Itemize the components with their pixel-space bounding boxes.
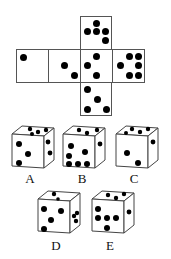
- pip: [93, 28, 100, 35]
- die-option-e[interactable]: [88, 189, 136, 235]
- pip: [126, 72, 133, 79]
- option-label-c: C: [124, 171, 144, 187]
- pip: [102, 28, 109, 35]
- pip: [103, 106, 110, 113]
- pip: [84, 62, 91, 69]
- die-option-b[interactable]: [59, 124, 107, 170]
- option-label-d: D: [46, 238, 66, 254]
- net-face-bottom: [80, 82, 112, 116]
- pip: [117, 62, 124, 69]
- net-face-row-1: [16, 49, 49, 83]
- pip: [84, 106, 91, 113]
- pip: [126, 53, 133, 60]
- net-face-row-4: [112, 49, 145, 83]
- pip: [71, 72, 78, 79]
- pip: [135, 62, 142, 69]
- pip: [93, 72, 100, 79]
- die-option-a[interactable]: [8, 124, 56, 170]
- option-label-e: E: [100, 238, 120, 254]
- pip: [135, 53, 142, 60]
- die-option-d[interactable]: [34, 189, 82, 235]
- pip: [20, 54, 27, 61]
- pip: [84, 86, 91, 93]
- pip: [93, 20, 100, 27]
- pip: [61, 62, 68, 69]
- net-face-row-2: [48, 49, 81, 83]
- net-face-row-3: [80, 49, 113, 83]
- pip: [94, 96, 101, 103]
- die-option-c[interactable]: [112, 124, 160, 170]
- net-face-top: [80, 16, 112, 50]
- option-label-b: B: [72, 171, 92, 187]
- pip: [84, 28, 91, 35]
- option-label-a: A: [20, 171, 40, 187]
- pip: [135, 72, 142, 79]
- pip: [102, 37, 109, 44]
- pip: [93, 53, 100, 60]
